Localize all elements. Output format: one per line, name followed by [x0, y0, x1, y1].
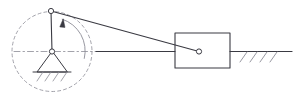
crank-center-joint	[49, 49, 54, 54]
crank-arm	[51, 11, 52, 52]
hatch-stroke	[45, 72, 51, 81]
hatch-stroke	[240, 52, 247, 62]
hatch-stroke	[61, 72, 67, 81]
hatch-stroke	[53, 72, 59, 81]
hatch-stroke	[260, 52, 267, 62]
slider-crank-diagram	[0, 0, 298, 101]
ground-pivot-support	[33, 52, 71, 82]
connecting-rod	[51, 11, 199, 52]
pivot-ground-hatching	[37, 72, 67, 81]
slider-block	[175, 33, 230, 68]
guide-ground-hatching	[240, 52, 277, 62]
hatch-stroke	[250, 52, 257, 62]
hatch-stroke	[37, 72, 43, 81]
rotation-direction-arrow	[60, 19, 85, 59]
hatch-stroke	[270, 52, 277, 62]
guide-ground	[230, 52, 292, 63]
slider-pin-joint	[196, 49, 201, 54]
diagram-canvas	[0, 0, 298, 101]
crank-pin-joint	[48, 8, 53, 13]
